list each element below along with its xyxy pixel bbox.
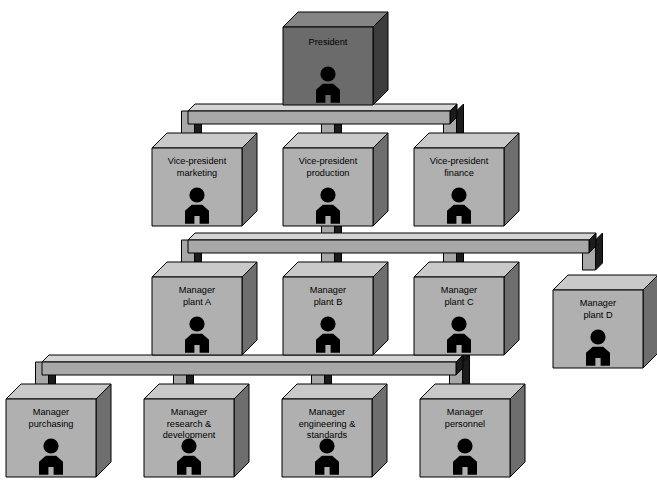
- org-node-label-line: plant B: [314, 297, 343, 307]
- org-node-label-line: Vice-president: [430, 156, 489, 166]
- org-node-label-line: Manager: [309, 407, 345, 417]
- org-node-side-face: [372, 384, 387, 477]
- person-icon-head: [181, 438, 196, 453]
- org-node-mgr-engineering[interactable]: Managerengineering &standards: [282, 384, 387, 477]
- org-node-label-line: marketing: [177, 168, 217, 178]
- org-node-label-line: personnel: [445, 419, 485, 429]
- org-node-label-line: development: [163, 430, 216, 440]
- person-icon-head: [320, 187, 335, 202]
- org-node-mgr-personnel[interactable]: Managerpersonnel: [420, 384, 525, 477]
- org-node-top-face: [553, 275, 657, 290]
- org-node-side-face: [234, 384, 249, 477]
- org-node-label-line: plant C: [444, 297, 473, 307]
- org-node-side-face: [643, 275, 657, 368]
- org-node-label-line: Manager: [580, 298, 616, 308]
- org-node-top-face: [414, 133, 519, 148]
- connector-leg-side: [596, 233, 603, 270]
- org-node-label-line: Manager: [33, 407, 69, 417]
- org-node-vp-marketing[interactable]: Vice-presidentmarketing: [152, 133, 257, 226]
- org-node-vp-production[interactable]: Vice-presidentproduction: [283, 133, 388, 226]
- org-node-top-face: [152, 133, 257, 148]
- person-icon-head: [451, 316, 466, 331]
- org-node-top-face: [6, 384, 111, 399]
- org-node-side-face: [242, 133, 257, 226]
- org-node-side-face: [242, 262, 257, 355]
- org-node-label-line: standards: [307, 430, 348, 440]
- org-node-mgr-research[interactable]: Managerresearch &development: [144, 384, 249, 477]
- person-icon-head: [189, 187, 204, 202]
- org-node-label-line: purchasing: [29, 419, 74, 429]
- org-node-label-line: Vice-president: [299, 156, 358, 166]
- org-node-side-face: [373, 12, 388, 105]
- org-node-label-line: Vice-president: [168, 156, 227, 166]
- connector-beam-top: [42, 355, 463, 362]
- org-node-label-line: plant D: [583, 310, 612, 320]
- org-node-label-line: Manager: [441, 285, 477, 295]
- org-node-mgr-plant-a[interactable]: Managerplant A: [152, 262, 257, 355]
- person-icon-head: [457, 438, 472, 453]
- org-node-top-face: [283, 262, 388, 277]
- org-node-label-line: Manager: [171, 407, 207, 417]
- org-node-label-line: engineering &: [299, 419, 356, 429]
- org-node-label-line: plant A: [183, 297, 212, 307]
- person-icon-head: [43, 438, 58, 453]
- person-icon-head: [319, 438, 334, 453]
- org-node-label-line: President: [309, 37, 348, 47]
- org-node-label-line: research &: [167, 419, 211, 429]
- org-node-side-face: [373, 262, 388, 355]
- org-chart-diagram: PresidentVice-presidentmarketingVice-pre…: [0, 0, 657, 486]
- org-node-top-face: [283, 12, 388, 27]
- org-node-side-face: [96, 384, 111, 477]
- person-icon-head: [320, 66, 335, 81]
- org-node-mgr-purchasing[interactable]: Managerpurchasing: [6, 384, 111, 477]
- org-node-top-face: [420, 384, 525, 399]
- org-node-side-face: [504, 133, 519, 226]
- org-node-top-face: [144, 384, 249, 399]
- person-icon-head: [189, 316, 204, 331]
- org-node-mgr-plant-b[interactable]: Managerplant B: [283, 262, 388, 355]
- org-node-vp-finance[interactable]: Vice-presidentfinance: [414, 133, 519, 226]
- person-icon-head: [451, 187, 466, 202]
- org-node-president[interactable]: President: [283, 12, 388, 105]
- org-node-side-face: [373, 133, 388, 226]
- org-node-label-line: production: [307, 168, 350, 178]
- person-icon-head: [320, 316, 335, 331]
- org-node-top-face: [414, 262, 519, 277]
- org-node-top-face: [152, 262, 257, 277]
- org-node-label-line: Manager: [310, 285, 346, 295]
- connector-beam-top: [188, 233, 596, 240]
- connector-beam-front: [42, 362, 456, 375]
- org-node-side-face: [504, 262, 519, 355]
- org-node-top-face: [283, 133, 388, 148]
- org-node-side-face: [510, 384, 525, 477]
- org-chart-canvas: PresidentVice-presidentmarketingVice-pre…: [0, 0, 657, 486]
- org-node-mgr-plant-d[interactable]: Managerplant D: [553, 275, 657, 368]
- org-node-top-face: [282, 384, 387, 399]
- org-node-mgr-plant-c[interactable]: Managerplant C: [414, 262, 519, 355]
- org-node-label-line: Manager: [179, 285, 215, 295]
- connector-beam-front: [188, 111, 450, 124]
- org-node-label-line: finance: [444, 168, 474, 178]
- person-icon-head: [590, 329, 605, 344]
- connector-beam-front: [188, 240, 589, 253]
- org-node-label-line: Manager: [447, 407, 483, 417]
